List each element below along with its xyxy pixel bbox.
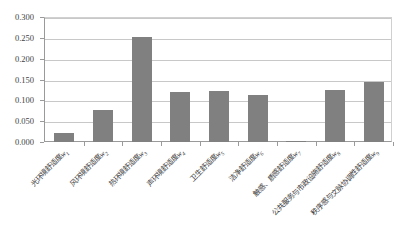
x-axis-category-label: 光环境舒适度w1 [30, 148, 72, 190]
category-label-text: 卫生舒适度 [189, 153, 220, 184]
x-axis-category-label: 声环境舒适度w4 [146, 148, 188, 190]
category-label-text: 光环境舒适度 [29, 153, 65, 189]
bar-chart: 0.3000.2500.2000.1500.1000.0500.000 光环境舒… [0, 0, 398, 249]
x-axis-category-label: 秩序感与文脉协调性舒适度w9 [310, 148, 381, 219]
category-label-text: 热环境舒适度 [106, 153, 142, 189]
category-label-text: 洁净舒适度 [227, 153, 258, 184]
category-label-text: 风环境舒适度 [68, 153, 104, 189]
x-axis-category-label: 洁净舒适度w6 [228, 148, 265, 185]
x-axis-category-label: 风环境舒适度w2 [68, 148, 110, 190]
x-axis-category-label: 公共服务与市政设施舒适度w8 [271, 148, 342, 219]
x-axis: 光环境舒适度w1风环境舒适度w2热环境舒适度w3声环境舒适度w4卫生舒适度w5洁… [0, 0, 398, 249]
x-axis-category-label: 卫生舒适度w5 [189, 148, 226, 185]
x-axis-category-label: 热环境舒适度w3 [107, 148, 149, 190]
category-label-text: 声环境舒适度 [145, 153, 181, 189]
